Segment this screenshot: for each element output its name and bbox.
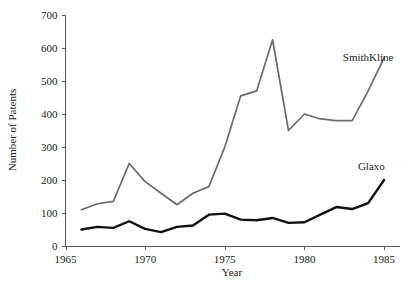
y-axis: 0100200300400500600700 — [41, 9, 66, 252]
y-tick-label: 300 — [41, 141, 58, 153]
x-axis-title: Year — [222, 266, 243, 278]
x-tick-labels: 19651970197519801985 — [55, 253, 396, 265]
x-tick-label: 1980 — [293, 253, 316, 265]
x-tick-label: 1970 — [134, 253, 157, 265]
y-tick-label: 500 — [41, 75, 58, 87]
y-tick-label: 400 — [41, 108, 58, 120]
x-tick-label: 1965 — [55, 253, 78, 265]
series-lines — [81, 40, 384, 232]
y-axis-title: Number of Patents — [6, 89, 18, 171]
y-tick-labels: 0100200300400500600700 — [41, 9, 58, 252]
series-annotations: SmithKlineGlaxo — [343, 51, 394, 172]
y-tick-marks — [62, 16, 66, 247]
x-tick-label: 1985 — [373, 253, 396, 265]
series-line-smithkline — [81, 40, 384, 210]
series-label-glaxo: Glaxo — [358, 160, 385, 172]
x-tick-label: 1975 — [214, 253, 237, 265]
chart-canvas: 0100200300400500600700 19651970197519801… — [0, 0, 418, 283]
y-tick-label: 100 — [41, 207, 58, 219]
patents-line-chart: 0100200300400500600700 19651970197519801… — [0, 0, 418, 283]
y-tick-label: 200 — [41, 174, 58, 186]
y-tick-label: 600 — [41, 42, 58, 54]
x-axis: 19651970197519801985 — [55, 246, 401, 265]
series-line-glaxo — [81, 180, 384, 232]
series-label-smithkline: SmithKline — [343, 51, 394, 63]
y-tick-label: 0 — [52, 240, 58, 252]
y-tick-label: 700 — [41, 9, 58, 21]
